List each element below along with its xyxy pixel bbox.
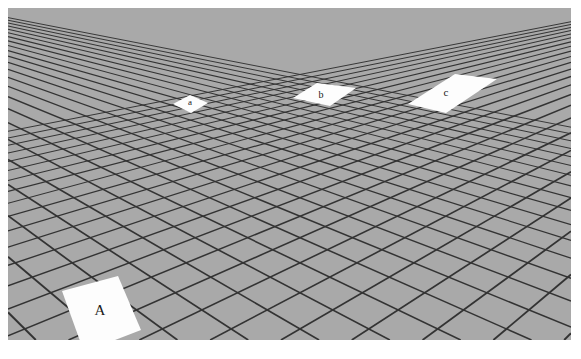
tile-a-label: a bbox=[188, 97, 192, 107]
tile-c-label: c bbox=[444, 86, 449, 98]
tile-b-label: b bbox=[319, 89, 324, 100]
perspective-scene: Aabc bbox=[0, 0, 581, 359]
figure-root: Aabc bbox=[0, 0, 581, 359]
tile-A-label: A bbox=[95, 302, 106, 318]
